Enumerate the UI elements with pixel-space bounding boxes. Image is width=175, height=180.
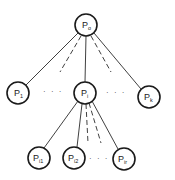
node-subscript: i1 xyxy=(39,158,43,164)
node-pk: P k xyxy=(138,86,160,108)
ellipsis-row2: · · · xyxy=(89,154,109,163)
edge-pi-pir xyxy=(92,101,118,149)
node-root: P o xyxy=(75,14,97,36)
tree-diagram: P o P 1 P i P k P i1 P i2 P ir · · · · ·… xyxy=(0,0,175,180)
node-subscript: ir xyxy=(124,159,127,165)
ellipsis-row1-right: · · · xyxy=(106,88,126,97)
node-p1: P 1 xyxy=(7,82,29,104)
node-subscript: 1 xyxy=(20,93,23,99)
node-pi: P i xyxy=(74,82,96,104)
edge-root-p1 xyxy=(26,33,78,85)
edge-pi-pi2 xyxy=(77,104,82,147)
node-subscript: i2 xyxy=(74,158,78,164)
edge-pi-dashed-2 xyxy=(89,103,101,143)
node-subscript: k xyxy=(150,97,153,103)
edge-root-pk xyxy=(94,33,141,89)
ellipsis-row1-left: · · · xyxy=(43,87,63,96)
edge-root-pi xyxy=(85,36,86,82)
pi-edges xyxy=(44,101,118,149)
root-edges xyxy=(26,33,141,89)
edge-pi-pi1 xyxy=(44,101,78,148)
edge-root-dashed-left xyxy=(60,36,81,72)
node-subscript: o xyxy=(88,25,91,31)
node-pi1: P i1 xyxy=(28,147,50,169)
edge-pi-dashed-1 xyxy=(86,104,88,143)
node-pir: P ir xyxy=(113,148,135,170)
node-pi2: P i2 xyxy=(63,147,85,169)
node-subscript: i xyxy=(87,93,88,99)
